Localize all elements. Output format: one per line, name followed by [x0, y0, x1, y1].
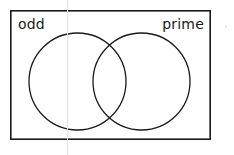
scan-fold-line [67, 0, 68, 155]
set-label-prime: prime [162, 17, 204, 31]
venn-diagram-figure: odd prime [0, 0, 234, 155]
scan-speck-artifact [225, 25, 227, 28]
set-label-odd: odd [18, 17, 45, 31]
